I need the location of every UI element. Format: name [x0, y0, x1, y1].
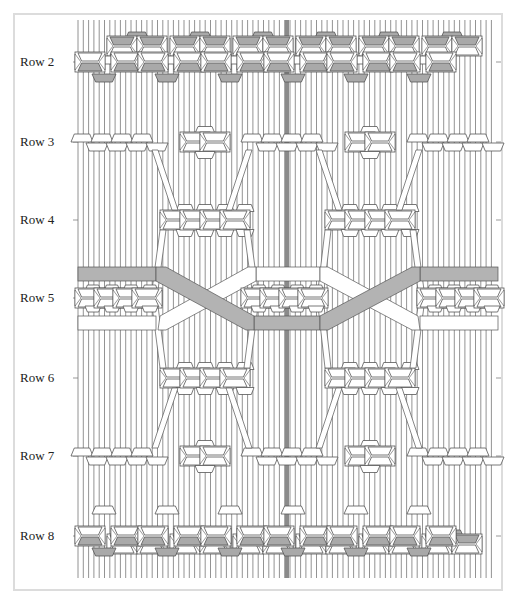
knot-segment	[91, 134, 113, 142]
knot-segment	[429, 53, 453, 61]
knot-segment	[240, 527, 264, 535]
knot-segment	[126, 457, 148, 465]
knot-segment	[366, 63, 390, 71]
knot-segment	[142, 306, 158, 312]
knot-segment	[223, 221, 247, 229]
knot-segment	[276, 457, 298, 465]
knot-segment	[368, 457, 392, 465]
knot-segment	[267, 53, 291, 61]
knot-segment	[177, 527, 201, 535]
knot-segment	[114, 53, 138, 61]
knot-segment	[388, 379, 412, 387]
knot-segment	[204, 527, 228, 535]
knot-segment	[203, 143, 227, 151]
knot-segment	[303, 63, 327, 71]
white-band-left	[78, 316, 156, 330]
knot-segment	[195, 152, 215, 159]
knot-segment	[303, 53, 327, 61]
knot-segment	[256, 457, 278, 465]
knot-segment	[329, 37, 353, 45]
knot-segment	[86, 143, 108, 151]
knot-segment	[407, 448, 429, 456]
knot-segment	[131, 134, 153, 142]
knot-segment	[106, 143, 128, 151]
white-band-right	[420, 316, 498, 330]
knot-segment	[203, 133, 227, 141]
knot-segment	[71, 134, 93, 142]
knot-segment	[176, 230, 194, 237]
knot-segment	[216, 230, 234, 237]
knot-segment	[303, 527, 327, 535]
diagonal-strand	[152, 150, 178, 210]
knot-segment	[141, 527, 165, 535]
knot-segment	[281, 548, 305, 556]
knot-segment	[223, 211, 247, 219]
knot-segment	[455, 545, 479, 553]
knot-segment	[422, 457, 444, 465]
knot-segment	[299, 37, 323, 45]
knot-segment	[146, 457, 168, 465]
knot-segment	[281, 506, 305, 514]
gray-band-left	[78, 267, 156, 281]
knot-segment	[303, 537, 327, 545]
knot-segment	[135, 289, 159, 297]
knot-segment	[330, 527, 354, 535]
knot-segment	[195, 466, 215, 473]
diagonal-strand	[226, 150, 252, 210]
knot-segment	[281, 448, 303, 456]
knot-segment	[140, 37, 164, 45]
knot-segment	[71, 448, 93, 456]
knot-segment	[442, 143, 464, 151]
knot-segment	[366, 527, 390, 535]
knot-segment	[407, 548, 431, 556]
knot-segment	[92, 506, 116, 514]
knot-segment	[477, 289, 501, 297]
knot-segment	[366, 537, 390, 545]
knot-segment	[407, 74, 431, 82]
knot-segment	[267, 527, 291, 535]
knot-segment	[241, 134, 263, 142]
knot-segment	[114, 63, 138, 71]
knot-segment	[360, 466, 380, 473]
knot-segment	[296, 457, 318, 465]
knot-segment	[114, 537, 138, 545]
knot-segment	[344, 548, 368, 556]
knot-segment	[111, 448, 133, 456]
knot-segment	[204, 537, 228, 545]
knot-segment	[203, 447, 227, 455]
knot-segment	[301, 289, 325, 297]
gray-band-center	[254, 316, 320, 330]
knot-segment	[173, 37, 197, 45]
knot-segment	[203, 457, 227, 465]
knot-segment	[281, 74, 305, 82]
diagonal-strand	[152, 388, 178, 448]
knot-segment	[330, 537, 354, 545]
knot-segment	[240, 63, 264, 71]
knot-segment	[368, 133, 392, 141]
knot-segment	[344, 74, 368, 82]
knot-segment	[296, 143, 318, 151]
knot-segment	[240, 53, 264, 61]
knot-segment	[267, 63, 291, 71]
knot-segment	[223, 369, 247, 377]
knot-segment	[141, 537, 165, 545]
knot-segment	[261, 134, 283, 142]
knot-segment	[425, 37, 449, 45]
knot-segment	[78, 527, 102, 535]
knot-segment	[261, 448, 283, 456]
knot-segment	[447, 134, 469, 142]
knot-segment	[467, 448, 489, 456]
knot-segment	[177, 537, 201, 545]
diagonal-strand	[396, 388, 422, 448]
knot-segment	[392, 37, 416, 45]
knot-segment	[462, 143, 484, 151]
knot-segment	[204, 53, 228, 61]
knot-segment	[176, 388, 194, 395]
knot-segment	[462, 457, 484, 465]
knot-segment	[196, 388, 214, 395]
knot-segment	[92, 74, 116, 82]
knot-segment	[393, 527, 417, 535]
knot-segment	[388, 221, 412, 229]
knot-segment	[393, 63, 417, 71]
knot-segment	[368, 143, 392, 151]
